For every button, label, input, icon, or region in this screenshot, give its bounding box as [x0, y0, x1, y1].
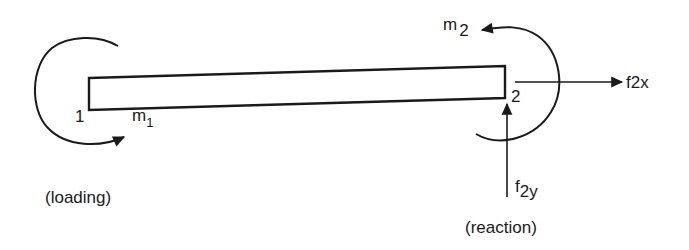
node-1-label: 1: [75, 107, 84, 126]
force-f2x-label: f2x: [626, 73, 649, 92]
moment-m2-arrow: [476, 27, 559, 140]
moment-m1-arrow: [35, 38, 124, 144]
beam-free-body-diagram: 1 2 m1 m2 f2x f2y (loading) (reaction): [0, 0, 689, 250]
loading-caption: (loading): [45, 188, 111, 207]
moment-m1-label: m1: [132, 106, 153, 130]
reaction-caption: (reaction): [465, 218, 537, 237]
moment-m2-label: m2: [443, 15, 469, 40]
node-2-label: 2: [511, 87, 520, 106]
beam-element: [89, 66, 505, 110]
force-f2y-label: f2y: [515, 177, 538, 201]
